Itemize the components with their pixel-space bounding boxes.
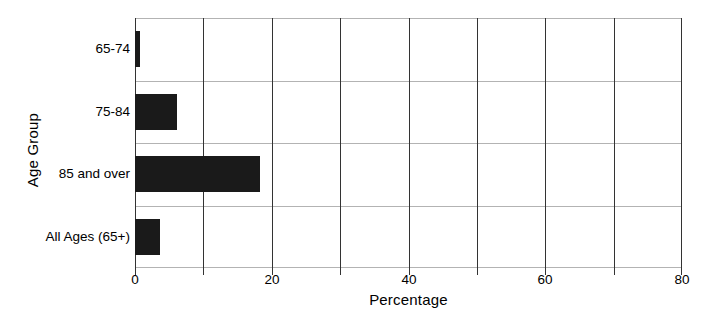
category-axis-labels: 65-7475-8485 and overAll Ages (65+): [18, 18, 130, 268]
gridline-vertical: [614, 18, 615, 268]
gridline-vertical: [340, 18, 341, 268]
bar: [135, 94, 177, 130]
gridline-vertical: [545, 18, 546, 268]
category-label: 65-74: [18, 42, 130, 56]
gridline-vertical: [681, 18, 682, 268]
gridline-vertical: [409, 18, 410, 268]
x-tick-label: 60: [515, 272, 575, 288]
x-tick-label: 40: [379, 272, 439, 288]
bar: [135, 156, 260, 192]
category-label: 85 and over: [18, 167, 130, 181]
category-label: 75-84: [18, 105, 130, 119]
gridline-vertical: [477, 18, 478, 268]
x-axis-title: Percentage: [135, 291, 682, 309]
bar-chart-figure: Age Group 65-7475-8485 and overAll Ages …: [0, 0, 711, 323]
bar: [135, 219, 160, 255]
x-tick-label: 0: [105, 272, 165, 288]
gridline-vertical: [272, 18, 273, 268]
x-tick-label: 20: [242, 272, 302, 288]
x-tick-label: 80: [652, 272, 711, 288]
category-label: All Ages (65+): [18, 230, 130, 244]
plot-area: [135, 18, 682, 268]
x-axis-tick-labels: 020406080: [135, 272, 682, 292]
gridline-vertical: [203, 18, 204, 268]
bar: [135, 31, 140, 67]
